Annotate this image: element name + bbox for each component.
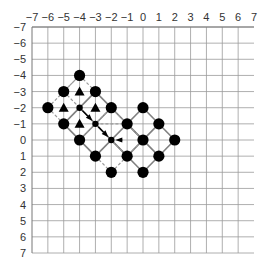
y-tick-label: −7 [13, 21, 26, 33]
lattice-diagram: −7−6−5−4−3−2−101234567 −7−6−5−4−3−2−1012… [0, 0, 267, 271]
large-circle-marker [122, 118, 133, 129]
x-tick-label: 2 [172, 11, 178, 23]
large-circle-marker [153, 118, 164, 129]
x-tick-label: 3 [188, 11, 194, 23]
small-dot-marker [76, 105, 82, 111]
large-circle-marker [137, 102, 148, 113]
triangle-marker [75, 119, 85, 128]
y-tick-label: 5 [20, 215, 26, 227]
large-circle-marker [153, 151, 164, 162]
x-tick-label: 6 [235, 11, 241, 23]
x-tick-label: 0 [140, 11, 146, 23]
large-circle-marker [137, 134, 148, 145]
y-tick-label: 2 [20, 166, 26, 178]
x-tick-label: −4 [73, 11, 86, 23]
arrow-shaft [98, 127, 103, 132]
y-tick-label: −5 [13, 53, 26, 65]
x-axis-tick-labels: −7−6−5−4−3−2−101234567 [26, 11, 257, 23]
x-tick-label: −2 [105, 11, 118, 23]
x-tick-label: 7 [251, 11, 257, 23]
x-tick-label: −5 [57, 11, 70, 23]
arrow-shaft [82, 111, 87, 116]
y-tick-label: 0 [20, 134, 26, 146]
large-circle-marker [58, 86, 69, 97]
x-tick-label: 4 [203, 11, 209, 23]
x-tick-label: 5 [219, 11, 225, 23]
triangle-marker [75, 87, 85, 96]
y-axis-tick-labels: −7−6−5−4−3−2−101234567 [13, 21, 26, 259]
large-circle-marker [106, 102, 117, 113]
y-tick-label: 1 [20, 150, 26, 162]
y-tick-label: −3 [13, 86, 26, 98]
large-circle-marker [137, 167, 148, 178]
y-tick-label: 4 [20, 199, 26, 211]
x-tick-label: −3 [89, 11, 102, 23]
y-tick-label: 3 [20, 182, 26, 194]
large-circle-marker [74, 134, 85, 145]
triangle-marker [59, 103, 69, 112]
large-circle-marker [169, 134, 180, 145]
small-dot-marker [108, 137, 114, 143]
x-tick-label: −6 [42, 11, 55, 23]
arrow-head-icon [115, 137, 122, 142]
large-circle-marker [106, 167, 117, 178]
y-tick-label: −1 [13, 118, 26, 130]
y-tick-label: 7 [20, 247, 26, 259]
y-tick-label: −2 [13, 102, 26, 114]
large-circle-marker [42, 102, 53, 113]
large-circle-marker [58, 118, 69, 129]
y-tick-label: 6 [20, 231, 26, 243]
x-tick-label: 1 [156, 11, 162, 23]
y-tick-label: −6 [13, 37, 26, 49]
large-circle-marker [90, 151, 101, 162]
arrows [82, 111, 122, 143]
large-circle-marker [74, 70, 85, 81]
small-dot-marker [92, 121, 98, 127]
x-tick-label: −1 [121, 11, 134, 23]
x-tick-label: −7 [26, 11, 39, 23]
large-circle-marker [90, 86, 101, 97]
large-circle-marker [122, 151, 133, 162]
y-tick-label: −4 [13, 69, 26, 81]
triangle-marker [90, 103, 100, 112]
